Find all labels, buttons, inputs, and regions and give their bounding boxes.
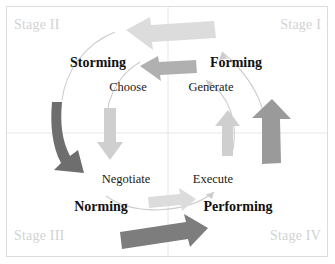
right-outer-arrow: [252, 99, 291, 164]
stage-label-bottom-left: Stage III: [14, 228, 64, 244]
phase-label-performing: Performing: [203, 199, 272, 215]
stage-label-bottom-right: Stage IV: [270, 228, 321, 244]
bottom-outer-arrow: [120, 214, 208, 249]
phase-label-storming: Storming: [70, 55, 126, 71]
top-outer-arrow: [126, 17, 216, 50]
left-outer-arrow: [51, 102, 84, 173]
diagram-graphics: [0, 0, 335, 264]
action-label-negotiate: Negotiate: [102, 172, 151, 187]
left-inner-arrow: [97, 108, 123, 160]
action-label-generate: Generate: [188, 80, 233, 95]
action-label-choose: Choose: [109, 80, 147, 95]
phase-label-forming: Forming: [210, 55, 262, 71]
stage-label-top-left: Stage II: [14, 17, 60, 33]
action-label-execute: Execute: [193, 172, 233, 187]
stage-label-top-right: Stage I: [280, 17, 321, 33]
bottom-inner-arrow: [148, 188, 196, 211]
diagram-canvas: Stage II Stage I Stage III Stage IV Stor…: [0, 0, 335, 264]
phase-label-norming: Norming: [74, 199, 128, 215]
